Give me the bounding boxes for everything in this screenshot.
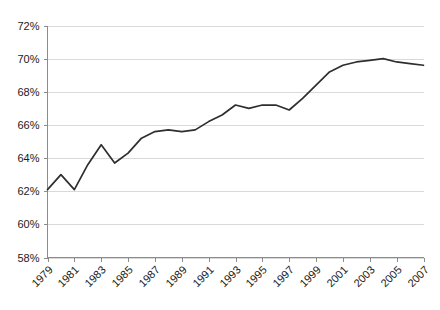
y-tick-label: 64% [17,152,39,164]
y-tick-label: 58% [17,252,39,264]
line-chart: 58%60%62%64%66%68%70%72% 197919811983198… [0,0,440,310]
y-tick-label: 60% [17,218,39,230]
y-tick-label: 72% [17,20,39,32]
y-tick-label: 68% [17,86,39,98]
y-tick-label: 70% [17,53,39,65]
chart-canvas: 58%60%62%64%66%68%70%72% 197919811983198… [0,0,440,310]
y-tick-label: 62% [17,185,39,197]
y-tick-label: 66% [17,119,39,131]
chart-background [0,0,440,310]
